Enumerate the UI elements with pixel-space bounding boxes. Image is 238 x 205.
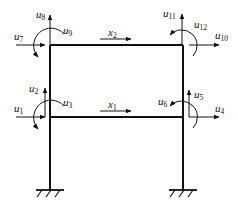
- svg-text:u9: u9: [63, 24, 73, 38]
- frame-diagram: x2 x1 u7 u8 u9 u1 u2 u3 u11 u12 u10 u5 u…: [0, 0, 238, 205]
- frame-members: [50, 45, 183, 190]
- svg-text:x1: x1: [107, 98, 117, 112]
- svg-text:u10: u10: [215, 29, 228, 43]
- svg-text:u3: u3: [63, 96, 73, 110]
- beam-arrow-x1: x1: [100, 98, 131, 112]
- svg-text:u11: u11: [163, 7, 176, 21]
- svg-text:u12: u12: [194, 18, 207, 32]
- svg-text:x2: x2: [107, 26, 117, 40]
- svg-text:u4: u4: [215, 102, 225, 116]
- svg-text:u6: u6: [158, 95, 168, 109]
- fixed-support-left: [36, 190, 64, 197]
- svg-text:u7: u7: [14, 30, 24, 44]
- svg-text:u5: u5: [194, 88, 204, 102]
- beam-arrow-x2: x2: [100, 26, 131, 40]
- svg-text:u2: u2: [29, 82, 39, 96]
- fixed-support-right: [169, 190, 197, 197]
- svg-text:u1: u1: [14, 102, 24, 116]
- svg-text:u8: u8: [36, 8, 46, 22]
